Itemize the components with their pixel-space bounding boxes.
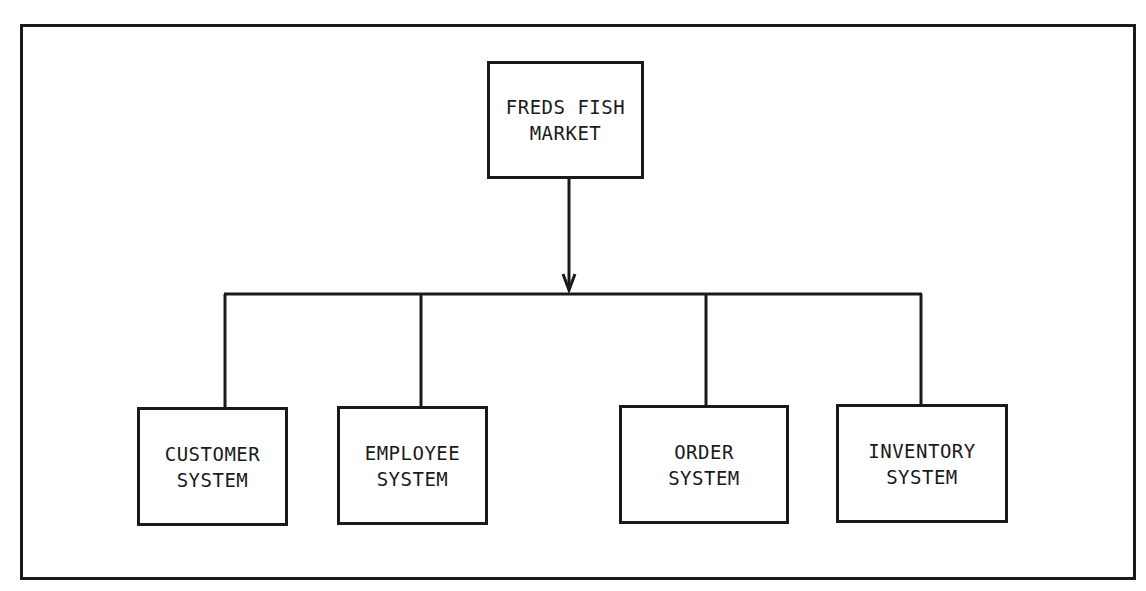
node-label-line2: SYSTEM <box>886 464 958 490</box>
node-label-line2: SYSTEM <box>377 466 449 492</box>
root-node-line2: MARKET <box>530 120 602 146</box>
node-inventory-system: INVENTORY SYSTEM <box>836 404 1008 523</box>
node-customer-system: CUSTOMER SYSTEM <box>137 407 288 526</box>
node-label-line1: ORDER <box>674 439 734 465</box>
node-label-line2: SYSTEM <box>177 467 249 493</box>
node-order-system: ORDER SYSTEM <box>619 405 789 524</box>
node-label-line1: INVENTORY <box>868 438 975 464</box>
root-node-line1: FREDS FISH <box>506 94 625 120</box>
node-employee-system: EMPLOYEE SYSTEM <box>337 406 488 525</box>
node-label-line1: CUSTOMER <box>165 441 261 467</box>
root-node-freds-fish-market: FREDS FISH MARKET <box>487 61 644 179</box>
node-label-line1: EMPLOYEE <box>365 440 461 466</box>
node-label-line2: SYSTEM <box>668 465 740 491</box>
